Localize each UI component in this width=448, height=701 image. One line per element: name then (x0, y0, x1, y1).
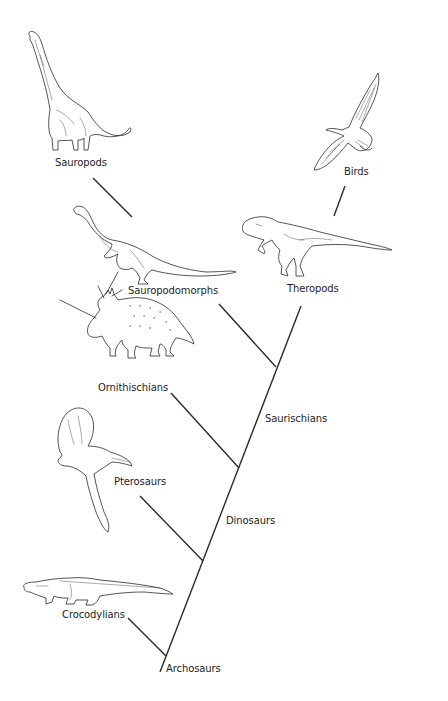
sauropod-illustration (29, 31, 131, 150)
theropod-illustration (242, 217, 392, 276)
taxon-label-sauropods: Sauropods (55, 157, 107, 169)
crocodylian-illustration (24, 578, 173, 605)
clade-label-dinosaurs: Dinosaurs (226, 515, 275, 527)
clade-label-archosaurs: Archosaurs (166, 663, 221, 675)
cladogram: Sauropods Birds Theropods Sauropodomorph… (0, 0, 448, 701)
taxon-label-pterosaurs: Pterosaurs (114, 476, 166, 488)
pterosaur-illustration (58, 408, 132, 532)
taxon-label-theropods: Theropods (287, 283, 339, 295)
taxon-label-sauropodomorphs: Sauropodomorphs (128, 285, 218, 297)
illustrations (0, 0, 448, 701)
bird-illustration (314, 73, 379, 170)
sauropodomorph-illustration (74, 206, 236, 284)
taxon-label-crocodylians: Crocodylians (62, 609, 125, 621)
taxon-label-ornithischians: Ornithischians (98, 382, 168, 394)
clade-label-saurischians: Saurischians (265, 413, 327, 425)
taxon-label-birds: Birds (344, 166, 369, 178)
